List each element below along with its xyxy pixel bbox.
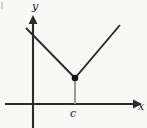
vertex-point-marker	[72, 75, 79, 82]
y-axis-label: y	[32, 1, 38, 12]
x-tick-label-c: c	[70, 108, 76, 119]
piecewise-v-curve	[26, 25, 120, 78]
x-axis-label: x	[138, 101, 144, 112]
graph-figure: y x c	[0, 0, 147, 128]
y-axis-arrowhead-icon	[29, 15, 38, 24]
